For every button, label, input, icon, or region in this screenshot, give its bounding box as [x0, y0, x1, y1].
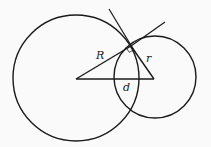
tangent-line-2	[131, 22, 165, 46]
orthogonal-circles-diagram: R r d	[0, 0, 211, 147]
large-circle	[13, 15, 139, 141]
label-r: r	[146, 52, 152, 65]
label-d: d	[123, 81, 130, 94]
label-R: R	[95, 49, 104, 62]
